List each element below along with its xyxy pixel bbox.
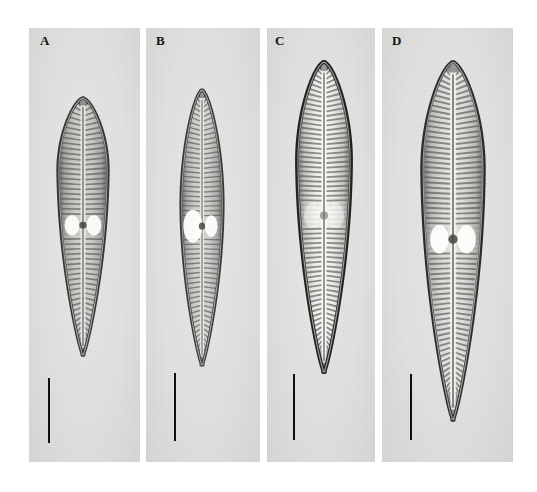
- scale-bar-b: [174, 373, 176, 441]
- panel-label-c: C: [275, 34, 284, 47]
- micrograph-panel-d: [382, 28, 513, 462]
- diatom-valve-d: [417, 57, 489, 425]
- micrograph-panel-c: [267, 28, 375, 462]
- scale-bar-d: [410, 374, 412, 440]
- diatom-valve-c: [292, 57, 356, 377]
- panel-label-d: D: [392, 34, 401, 47]
- scale-bar-a: [48, 378, 50, 443]
- panel-label-b: B: [156, 34, 165, 47]
- micrograph-panel-b: [146, 28, 260, 462]
- micrograph-panel-a: [29, 28, 140, 462]
- micrograph-figure-plate: ABCD: [0, 0, 537, 492]
- panel-label-a: A: [40, 34, 49, 47]
- diatom-valve-b: [176, 85, 228, 370]
- scale-bar-c: [293, 374, 295, 440]
- diatom-valve-a: [53, 93, 113, 360]
